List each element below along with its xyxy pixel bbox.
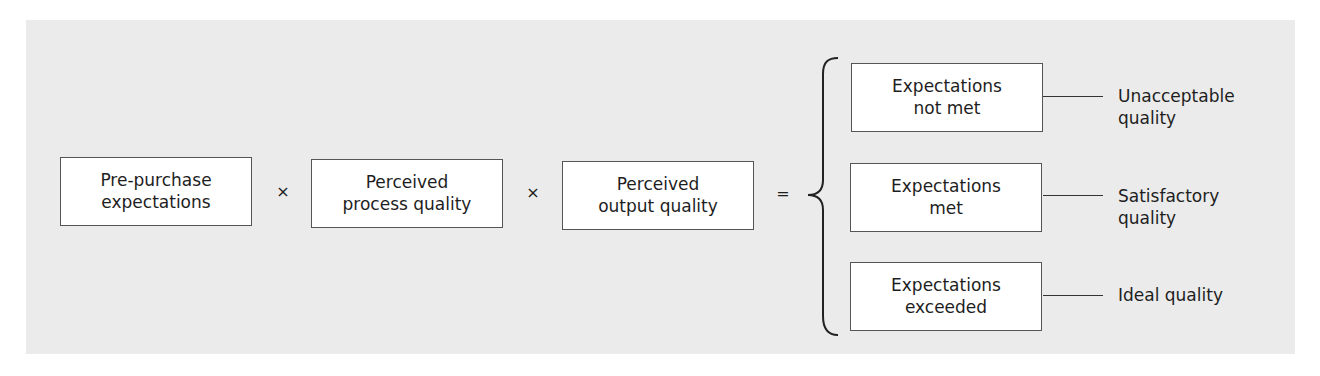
input-box-pre-purchase-expectations: Pre-purchase expectations bbox=[60, 157, 252, 226]
connector-line bbox=[1043, 96, 1103, 97]
connector-line bbox=[1043, 295, 1103, 296]
outcome-state-label: Expectations met bbox=[891, 175, 1001, 219]
input-label: Perceived process quality bbox=[343, 171, 472, 215]
input-box-perceived-output-quality: Perceived output quality bbox=[562, 161, 754, 230]
outcome-quality-satisfactory: Satisfactory quality bbox=[1118, 185, 1219, 229]
outcome-box-expectations-not-met: Expectations not met bbox=[851, 63, 1043, 132]
outcome-state-label: Expectations not met bbox=[892, 75, 1002, 119]
curly-brace-icon bbox=[800, 52, 844, 342]
multiply-operator: × bbox=[523, 183, 543, 203]
outcome-state-label: Expectations exceeded bbox=[891, 274, 1001, 318]
input-box-perceived-process-quality: Perceived process quality bbox=[311, 159, 503, 228]
input-label: Perceived output quality bbox=[598, 173, 718, 217]
outcome-box-expectations-met: Expectations met bbox=[850, 163, 1042, 232]
multiply-operator: × bbox=[273, 182, 293, 202]
connector-line bbox=[1043, 195, 1103, 196]
input-label: Pre-purchase expectations bbox=[100, 169, 211, 213]
outcome-quality-ideal: Ideal quality bbox=[1118, 284, 1223, 306]
outcome-box-expectations-exceeded: Expectations exceeded bbox=[850, 262, 1042, 331]
outcome-quality-unacceptable: Unacceptable quality bbox=[1118, 85, 1235, 129]
equals-operator: = bbox=[773, 184, 793, 204]
